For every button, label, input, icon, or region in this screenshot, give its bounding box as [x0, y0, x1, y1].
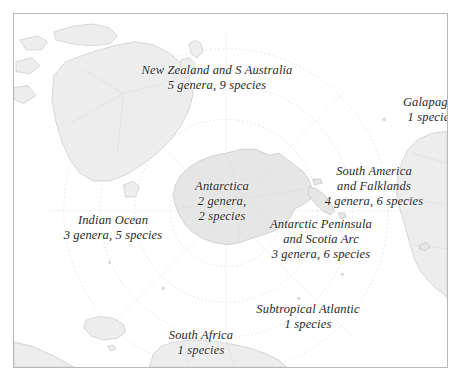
- map-figure: .land { fill:#ededed; stroke:#c9c9c9; st…: [0, 0, 463, 385]
- map-frame: .land { fill:#ededed; stroke:#c9c9c9; st…: [13, 13, 448, 368]
- map-canvas: .land { fill:#ededed; stroke:#c9c9c9; st…: [14, 14, 447, 367]
